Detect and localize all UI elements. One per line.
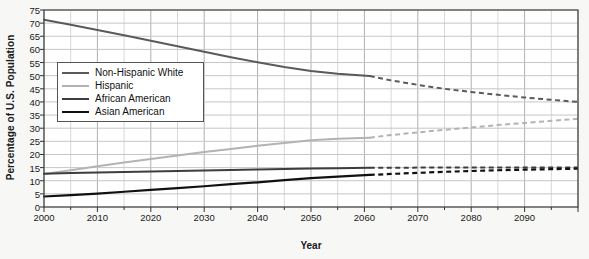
legend-swatch-asian-american [62,111,89,113]
x-tick-2000: 2000 [33,212,54,223]
legend-swatch-african-american [62,98,89,100]
x-tick-2060: 2060 [354,212,375,223]
legend-item-non-hispanic-white: Non-Hispanic White [62,66,199,79]
legend-label-asian-american: Asian American [95,105,164,118]
legend-item-african-american: African American [62,92,199,105]
x-tick-2090: 2090 [514,212,535,223]
x-tick-2020: 2020 [140,212,161,223]
x-tick-2010: 2010 [87,212,108,223]
legend-label-african-american: African American [95,92,171,105]
x-axis-tick-labels: 2000201020202030204020502060207020802090 [0,212,589,228]
chart-legend: Non-Hispanic White Hispanic African Amer… [57,62,204,122]
legend-item-hispanic: Hispanic [62,79,199,92]
x-tick-2040: 2040 [247,212,268,223]
x-axis-label: Year [44,240,578,251]
legend-label-hispanic: Hispanic [95,79,133,92]
x-tick-2050: 2050 [300,212,321,223]
legend-item-asian-american: Asian American [62,105,199,118]
x-tick-2030: 2030 [194,212,215,223]
legend-label-non-hispanic-white: Non-Hispanic White [95,66,183,79]
x-tick-2070: 2070 [407,212,428,223]
population-projection-chart: Percentage of U.S. Population 0510152025… [0,0,589,259]
legend-swatch-non-hispanic-white [62,72,89,74]
x-tick-2080: 2080 [461,212,482,223]
legend-swatch-hispanic [62,85,89,87]
